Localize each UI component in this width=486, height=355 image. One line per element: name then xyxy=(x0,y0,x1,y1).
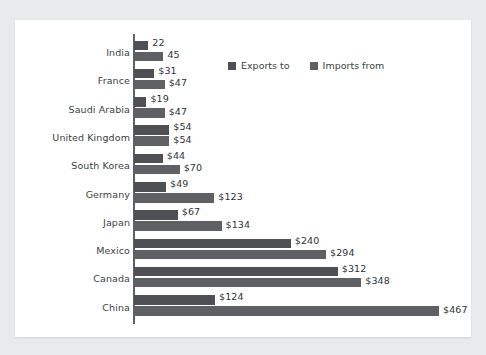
bar-group: 2245 xyxy=(134,38,486,66)
bar-value-label: $240 xyxy=(295,235,320,246)
bar-value-label: $54 xyxy=(173,134,191,145)
bar-value-label: $123 xyxy=(218,191,243,202)
bar-imports[interactable] xyxy=(134,108,165,118)
bar-value-label: $134 xyxy=(226,219,251,230)
bar-row: Germany$49$123 xyxy=(15,180,471,208)
category-label: Mexico xyxy=(96,245,130,256)
category-label: Canada xyxy=(93,273,130,284)
bar-exports[interactable] xyxy=(134,41,148,51)
category-label: Germany xyxy=(86,188,130,199)
bar-imports[interactable] xyxy=(134,52,163,62)
bar-group: $67$134 xyxy=(134,208,486,236)
bar-value-label: $70 xyxy=(184,162,202,173)
bar-imports[interactable] xyxy=(134,136,169,146)
bar-row: China$124$467 xyxy=(15,293,471,321)
bar-row: Canada$312$348 xyxy=(15,264,471,292)
chart-plot-area: Exports to Imports from India2245France$… xyxy=(15,20,471,337)
bar-group: $54$54 xyxy=(134,123,486,151)
bar-value-label: $467 xyxy=(443,304,468,315)
category-label: United Kingdom xyxy=(52,131,130,142)
bar-exports[interactable] xyxy=(134,295,215,305)
bar-value-label: $19 xyxy=(150,93,168,104)
category-label: Saudi Arabia xyxy=(69,103,130,114)
bar-exports[interactable] xyxy=(134,210,178,220)
bar-imports[interactable] xyxy=(134,80,165,90)
category-label: France xyxy=(98,75,130,86)
bar-row: Saudi Arabia$19$47 xyxy=(15,95,471,123)
bar-exports[interactable] xyxy=(134,97,146,107)
bar-group: $44$70 xyxy=(134,151,486,179)
bar-row: India2245 xyxy=(15,38,471,66)
bar-row: Mexico$240$294 xyxy=(15,236,471,264)
bar-row: France$31$47 xyxy=(15,66,471,94)
bar-exports[interactable] xyxy=(134,69,154,79)
bar-exports[interactable] xyxy=(134,182,166,192)
bar-row: South Korea$44$70 xyxy=(15,151,471,179)
bar-exports[interactable] xyxy=(134,267,338,277)
bar-value-label: $348 xyxy=(365,275,390,286)
bar-value-label: $47 xyxy=(169,106,187,117)
bar-value-label: $124 xyxy=(219,291,244,302)
bar-row: United Kingdom$54$54 xyxy=(15,123,471,151)
bar-value-label: $49 xyxy=(170,178,188,189)
bar-imports[interactable] xyxy=(134,193,214,203)
bar-imports[interactable] xyxy=(134,165,180,175)
bar-group: $124$467 xyxy=(134,293,486,321)
bar-value-label: $44 xyxy=(167,150,185,161)
bar-imports[interactable] xyxy=(134,306,439,316)
category-label: China xyxy=(102,301,130,312)
category-label: Japan xyxy=(103,216,130,227)
bar-value-label: 22 xyxy=(152,37,164,48)
category-label: South Korea xyxy=(71,160,130,171)
bar-exports[interactable] xyxy=(134,154,163,164)
bar-value-label: 45 xyxy=(167,49,179,60)
category-label: India xyxy=(106,47,130,58)
bar-group: $49$123 xyxy=(134,180,486,208)
bar-value-label: $31 xyxy=(158,65,176,76)
bar-value-label: $312 xyxy=(342,263,367,274)
bar-group: $31$47 xyxy=(134,66,486,94)
bar-group: $19$47 xyxy=(134,95,486,123)
bar-value-label: $47 xyxy=(169,77,187,88)
bar-exports[interactable] xyxy=(134,239,291,249)
bar-group: $240$294 xyxy=(134,236,486,264)
bar-row: Japan$67$134 xyxy=(15,208,471,236)
bar-imports[interactable] xyxy=(134,250,326,260)
bar-value-label: $54 xyxy=(173,121,191,132)
bar-imports[interactable] xyxy=(134,221,222,231)
bar-exports[interactable] xyxy=(134,125,169,135)
bar-group: $312$348 xyxy=(134,264,486,292)
bar-value-label: $67 xyxy=(182,206,200,217)
chart-panel: Exports to Imports from India2245France$… xyxy=(15,20,471,337)
bar-value-label: $294 xyxy=(330,247,355,258)
bar-imports[interactable] xyxy=(134,278,361,288)
